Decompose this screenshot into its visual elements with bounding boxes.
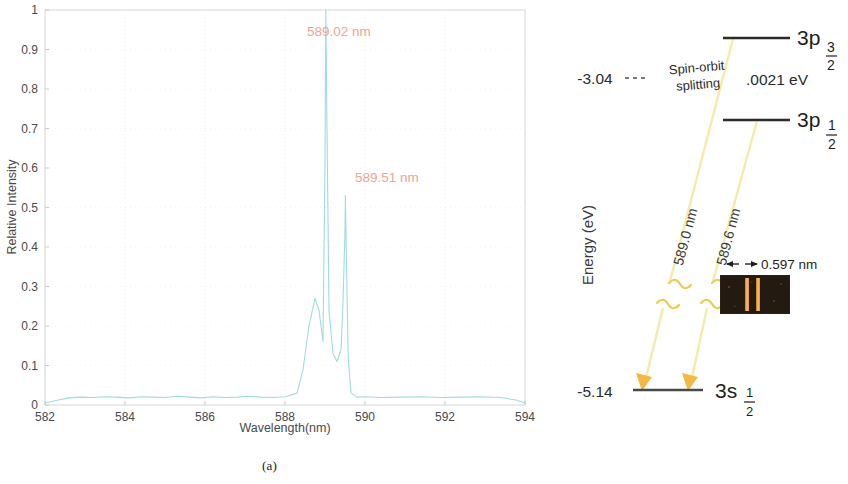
y-tick-label: 1 <box>31 3 38 17</box>
arrowhead-589-0 <box>636 373 652 391</box>
level-label-3p12: 3p 1 2 <box>797 108 837 152</box>
spectral-line-589-6 <box>756 278 760 311</box>
transition-589-6-lower <box>691 308 707 382</box>
caption-a: (a) <box>262 458 277 474</box>
x-tick-label: 592 <box>435 410 455 424</box>
panel-a-spectrum: 582584586588590592594 00.10.20.30.40.50.… <box>0 0 545 484</box>
spectral-line-589-0 <box>745 278 749 311</box>
level-label-3p32-num: 3 <box>827 39 835 55</box>
arrowhead-589-6 <box>682 373 698 391</box>
energy-value-excited: -3.04 <box>577 70 613 87</box>
x-tick-label: 594 <box>515 410 535 424</box>
y-tick-label: 0.4 <box>21 240 38 254</box>
transition-label-589-0: 589.0 nm <box>670 206 701 267</box>
photo-grain <box>721 276 789 313</box>
y-tick-label: 0.6 <box>21 161 38 175</box>
y-tick-label: 0.8 <box>21 82 38 96</box>
y-tick-label: 0 <box>31 398 38 412</box>
y-tick-label: 0.9 <box>21 43 38 57</box>
peak-annotation-2: 589.51 nm <box>355 170 419 185</box>
level-label-3p12-den: 2 <box>828 136 836 152</box>
level-label-3p12-num: 1 <box>828 117 836 133</box>
level-label-3p32-den: 2 <box>827 57 835 73</box>
level-label-3p12-main: 3p <box>797 108 820 131</box>
x-tick-label: 582 <box>35 410 55 424</box>
squiggle-break-1b <box>657 300 679 309</box>
x-axis-label: Wavelength(nm) <box>239 421 330 435</box>
x-tick-label: 584 <box>115 410 135 424</box>
energy-level-diagram: Energy (eV) 589.0 nm 5 <box>545 0 848 440</box>
y-tick-label: 0.2 <box>21 319 38 333</box>
spectrum-chart: 582584586588590592594 00.10.20.30.40.50.… <box>0 0 545 440</box>
level-label-3p32-main: 3p <box>797 26 820 49</box>
level-label-3s12-den: 2 <box>746 404 753 419</box>
level-label-3s12: 3s 1 2 <box>715 379 755 419</box>
y-tick-label: 0.3 <box>21 280 38 294</box>
energy-axis-label: Energy (eV) <box>579 205 596 285</box>
level-label-3p32: 3p 3 2 <box>797 26 837 73</box>
energy-value-ground: -5.14 <box>577 383 613 400</box>
level-label-3s12-main: 3s <box>715 379 737 402</box>
y-tick-labels: 00.10.20.30.40.50.60.70.80.91 <box>21 3 38 412</box>
panel-b-energy-diagram: Energy (eV) 589.0 nm 5 <box>545 0 848 484</box>
y-tick-label: 0.1 <box>21 359 38 373</box>
spin-orbit-line-2: splitting <box>675 75 720 94</box>
squiggle-break-2b <box>701 300 723 309</box>
figure-sodium-doublet: 582584586588590592594 00.10.20.30.40.50.… <box>0 0 848 484</box>
y-tick-label: 0.5 <box>21 201 38 215</box>
spin-orbit-caption: Spin-orbit splitting <box>668 58 727 95</box>
x-tick-label: 586 <box>195 410 215 424</box>
peak-annotation-1: 589.02 nm <box>307 24 371 39</box>
y-tick-label: 0.7 <box>21 122 38 136</box>
squiggle-break-1a <box>669 280 691 289</box>
transition-589-0-lower <box>645 308 663 382</box>
separation-arrow-right <box>751 261 758 267</box>
y-axis-label: Relative Intensity <box>5 159 19 255</box>
sodium-doublet-photo <box>721 276 789 313</box>
level-label-3s12-num: 1 <box>746 385 753 400</box>
separation-caller: 0.597 nm <box>726 257 817 272</box>
separation-label: 0.597 nm <box>761 257 817 272</box>
splitting-energy-value: .0021 eV <box>746 71 809 88</box>
transition-label-589-6: 589.6 nm <box>713 206 744 267</box>
x-tick-label: 590 <box>355 410 375 424</box>
